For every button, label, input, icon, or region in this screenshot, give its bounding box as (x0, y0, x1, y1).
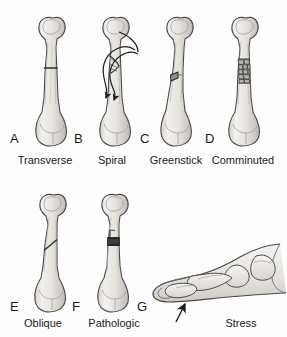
panel-caption-comminuted: Comminuted (203, 155, 283, 166)
panel-letter-f: F (72, 300, 80, 313)
panel-caption-stress: Stress (216, 318, 266, 329)
panel-caption-greenstick: Greenstick (141, 155, 211, 166)
femur-body (161, 17, 193, 146)
panel-pathologic (88, 190, 142, 315)
panel-letter-b: B (74, 132, 83, 145)
femur-body (35, 194, 66, 312)
femur-body (98, 194, 129, 312)
panel-caption-oblique: Oblique (14, 318, 72, 329)
panel-letter-d: D (205, 132, 214, 145)
panel-stress (148, 236, 287, 322)
fracture-types-figure: A Transverse (0, 0, 287, 337)
panel-oblique (26, 190, 80, 315)
bone-illustration-oblique (26, 190, 80, 315)
panel-greenstick (152, 12, 206, 152)
bone-illustration-pathologic (88, 190, 142, 315)
panel-comminuted (219, 12, 273, 152)
panel-letter-c: C (140, 132, 149, 145)
femur-body (36, 17, 67, 146)
panel-transverse (26, 12, 80, 152)
stress-fracture-arrow (176, 304, 185, 322)
panel-caption-spiral: Spiral (84, 155, 140, 166)
panel-letter-a: A (10, 132, 19, 145)
bone-illustration-greenstick (152, 12, 206, 152)
bone-illustration-comminuted (219, 12, 273, 152)
fracture-fragments-comminuted (238, 59, 250, 83)
panel-caption-transverse: Transverse (7, 155, 83, 166)
panel-letter-g: G (137, 300, 147, 313)
foot-illustration-stress (148, 236, 287, 322)
bone-illustration-transverse (26, 12, 80, 152)
panel-caption-pathologic: Pathologic (79, 318, 149, 329)
panel-letter-e: E (10, 300, 19, 313)
